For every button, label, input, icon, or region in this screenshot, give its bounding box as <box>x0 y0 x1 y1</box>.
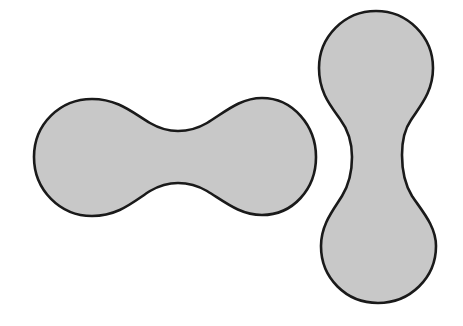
diagram-canvas <box>0 0 463 326</box>
vertical-dumbbell-shape <box>319 11 436 303</box>
horizontal-dumbbell-shape <box>34 98 316 216</box>
